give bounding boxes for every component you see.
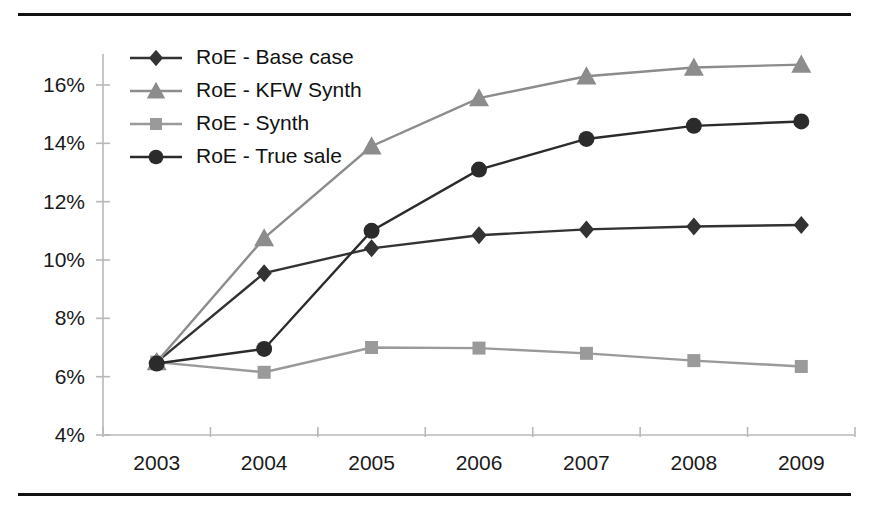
y-tick-label: 8% [55,306,85,329]
circle-marker [471,162,487,178]
circle-marker [686,118,702,134]
y-tick-label: 16% [43,73,85,96]
y-axis-tick-labels: 4%6%8%10%12%14%16% [43,73,85,446]
diamond-marker [579,220,594,238]
legend-item: RoE - Synth [130,111,309,134]
series-line [157,65,802,363]
series-line-group [147,55,812,371]
y-tick-label: 6% [55,365,85,388]
legend-label: RoE - KFW Synth [196,78,362,101]
circle-marker [149,150,164,165]
x-tick-label: 2004 [241,451,288,474]
diamond-marker [686,217,701,235]
diamond-marker [364,239,379,257]
chart-legend: RoE - Base caseRoE - KFW SynthRoE - Synt… [130,45,362,167]
data-series [147,55,812,379]
circle-marker [793,113,809,129]
x-tick-label: 2007 [563,451,610,474]
circle-marker [578,131,594,147]
y-tick-label: 4% [55,423,85,446]
chart-canvas: 4%6%8%10%12%14%16% 200320042005200620072… [0,18,869,490]
square-marker [365,341,378,354]
figure-page: 4%6%8%10%12%14%16% 200320042005200620072… [0,0,869,516]
x-tick-label: 2008 [670,451,717,474]
series-line [157,225,802,362]
legend-label: RoE - Synth [196,111,309,134]
circle-marker [364,223,380,239]
series-line-group [150,341,808,379]
square-marker [580,347,593,360]
legend-label: RoE - Base case [196,45,354,68]
square-marker [795,360,808,373]
line-chart: 4%6%8%10%12%14%16% 200320042005200620072… [0,18,869,490]
circle-marker [256,341,272,357]
y-tick-label: 12% [43,190,85,213]
x-tick-label: 2006 [456,451,503,474]
x-tick-label: 2009 [778,451,825,474]
diamond-marker [256,264,271,282]
legend-item: RoE - KFW Synth [130,78,362,101]
square-marker [150,118,162,130]
square-marker [473,342,486,355]
square-marker [687,354,700,367]
legend-item: RoE - True sale [130,144,342,167]
top-rule [18,13,851,16]
y-tick-label: 10% [43,248,85,271]
x-axis-tick-labels: 2003200420052006200720082009 [133,451,824,474]
circle-marker [149,356,165,372]
y-tick-label: 14% [43,131,85,154]
legend-label: RoE - True sale [196,144,342,167]
x-tick-label: 2003 [133,451,180,474]
diamond-marker [471,226,486,244]
triangle-marker [362,136,382,154]
x-tick-label: 2005 [348,451,395,474]
square-marker [258,366,271,379]
bottom-rule [18,493,851,496]
diamond-marker [794,216,809,234]
legend-item: RoE - Base case [130,45,354,68]
diamond-marker [149,50,163,67]
